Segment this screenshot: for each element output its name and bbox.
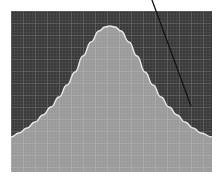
- chart-figure: [0, 0, 223, 184]
- plot-area: [11, 11, 212, 172]
- distribution-plot: [11, 11, 212, 172]
